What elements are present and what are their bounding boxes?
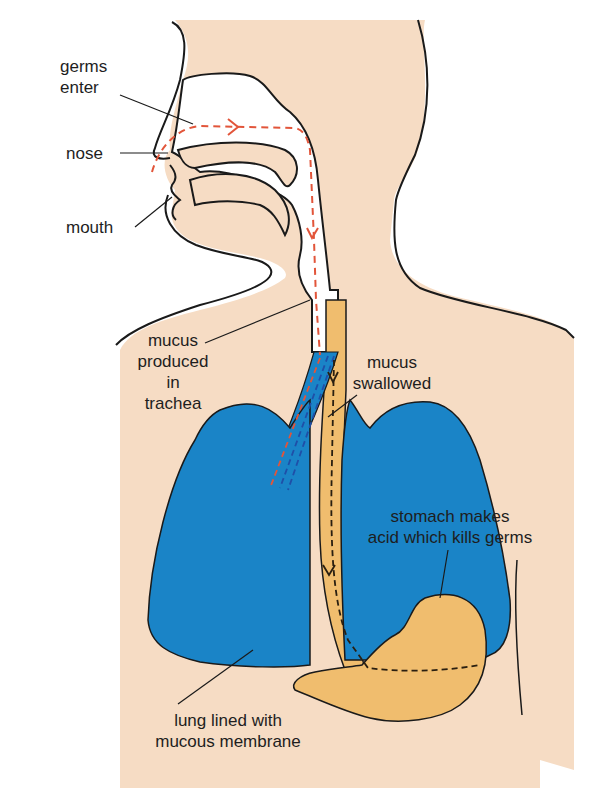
- label-nose: nose: [66, 143, 103, 164]
- label-lung: lung lined with mucous membrane: [138, 710, 318, 752]
- diagram-canvas: germs enter nose mouth mucus produced in…: [0, 0, 591, 788]
- label-mouth: mouth: [66, 217, 113, 238]
- body-illustration: [0, 0, 591, 788]
- label-mucus-produced: mucus produced in trachea: [118, 330, 228, 414]
- label-germs-enter: germs enter: [60, 56, 107, 98]
- label-stomach: stomach makes acid which kills germs: [350, 506, 550, 548]
- label-mucus-swallowed: mucus swallowed: [342, 352, 442, 394]
